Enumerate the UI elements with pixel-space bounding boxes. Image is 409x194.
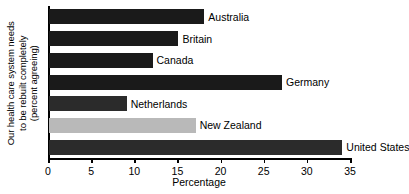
bar-united-states <box>49 140 342 155</box>
x-tick-mark <box>177 158 179 163</box>
bar-row: Netherlands <box>49 96 351 111</box>
bar-row: Australia <box>49 9 351 24</box>
x-axis-title: Percentage <box>48 176 350 188</box>
x-tick-mark <box>264 158 266 163</box>
y-axis-title: Our health care system needs to be rebui… <box>0 0 44 166</box>
bar-label-new-zealand: New Zealand <box>200 120 262 131</box>
plot-area: AustraliaBritainCanadaGermanyNetherlands… <box>48 6 350 158</box>
x-tick-mark <box>91 158 93 163</box>
bar-row: Britain <box>49 31 351 46</box>
bar-label-britain: Britain <box>182 33 212 44</box>
bar-netherlands <box>49 96 127 111</box>
bar-row: New Zealand <box>49 118 351 133</box>
bar-row: Germany <box>49 75 351 90</box>
x-tick-mark <box>307 158 309 163</box>
bar-label-united-states: United States <box>346 142 409 153</box>
bar-label-australia: Australia <box>208 11 249 22</box>
x-tick-mark <box>48 158 50 163</box>
bar-chart: Our health care system needs to be rebui… <box>0 0 409 194</box>
bar-new-zealand <box>49 118 196 133</box>
bar-label-germany: Germany <box>286 77 329 88</box>
bar-label-canada: Canada <box>157 55 194 66</box>
x-tick-mark <box>350 158 352 163</box>
y-axis-title-line-2: to be rebuilt completely <box>16 21 28 145</box>
bar-britain <box>49 31 178 46</box>
x-axis-line <box>48 158 350 160</box>
y-axis-title-line-3: (percent agreeing) <box>28 21 40 145</box>
bar-canada <box>49 53 153 68</box>
x-tick-mark <box>134 158 136 163</box>
bar-germany <box>49 75 282 90</box>
y-axis-title-line-1: Our health care system needs <box>5 21 17 145</box>
bar-row: United States <box>49 140 351 155</box>
bar-row: Canada <box>49 53 351 68</box>
bar-label-netherlands: Netherlands <box>131 98 188 109</box>
x-tick-mark <box>221 158 223 163</box>
y-axis-title-text: Our health care system needs to be rebui… <box>5 21 40 145</box>
bar-australia <box>49 9 204 24</box>
